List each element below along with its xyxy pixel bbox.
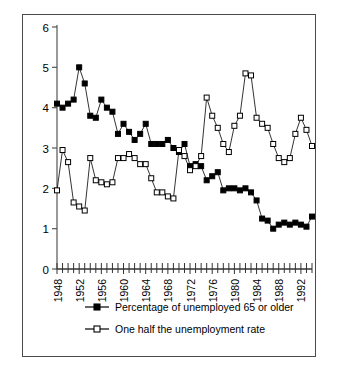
x-tick-label: 1948 bbox=[52, 279, 64, 303]
data-point-filled-square bbox=[104, 105, 109, 110]
x-tick-label: 1964 bbox=[140, 279, 152, 303]
data-point-open-square bbox=[55, 188, 60, 193]
data-point-filled-square bbox=[287, 222, 292, 227]
data-point-filled-square bbox=[77, 65, 82, 70]
y-tick-label: 1 bbox=[43, 223, 49, 235]
data-point-open-square bbox=[221, 141, 226, 146]
data-point-filled-square bbox=[115, 131, 120, 136]
data-point-filled-square bbox=[271, 226, 276, 231]
series-line-0 bbox=[57, 67, 312, 228]
data-point-filled-square bbox=[243, 186, 248, 191]
data-point-open-square bbox=[143, 162, 148, 167]
data-point-filled-square bbox=[55, 101, 60, 106]
line-chart: 0123456194819521956196019641968197219761… bbox=[23, 15, 317, 358]
data-point-filled-square bbox=[298, 222, 303, 227]
data-point-filled-square bbox=[304, 224, 309, 229]
data-point-open-square bbox=[71, 200, 76, 205]
y-tick-label: 0 bbox=[43, 264, 49, 276]
data-point-open-square bbox=[160, 190, 165, 195]
data-point-filled-square bbox=[82, 81, 87, 86]
data-point-filled-square bbox=[149, 141, 154, 146]
figure-caption bbox=[10, 366, 330, 378]
data-point-open-square bbox=[282, 160, 287, 165]
data-point-open-square bbox=[77, 204, 82, 209]
data-point-open-square bbox=[88, 156, 93, 161]
data-point-open-square bbox=[276, 156, 281, 161]
data-point-open-square bbox=[260, 121, 265, 126]
data-point-open-square bbox=[82, 208, 87, 213]
data-point-open-square bbox=[204, 95, 209, 100]
x-tick-label: 1992 bbox=[295, 279, 307, 303]
y-tick-label: 5 bbox=[43, 62, 49, 74]
data-point-open-square bbox=[293, 131, 298, 136]
data-point-open-square bbox=[188, 168, 193, 173]
data-point-open-square bbox=[199, 154, 204, 159]
data-point-filled-square bbox=[110, 109, 115, 114]
x-tick-label: 1972 bbox=[185, 279, 197, 303]
x-tick-label: 1988 bbox=[273, 279, 285, 303]
y-tick-label: 3 bbox=[43, 143, 49, 155]
data-point-filled-square bbox=[237, 188, 242, 193]
data-point-filled-square bbox=[226, 186, 231, 191]
data-point-open-square bbox=[154, 190, 159, 195]
data-point-filled-square bbox=[215, 170, 220, 175]
plot-area: 0123456194819521956196019641968197219761… bbox=[23, 15, 317, 358]
data-point-open-square bbox=[215, 125, 220, 130]
y-tick-label: 2 bbox=[43, 183, 49, 195]
data-point-open-square bbox=[66, 160, 71, 165]
data-point-open-square bbox=[232, 123, 237, 128]
data-point-filled-square bbox=[165, 137, 170, 142]
data-point-open-square bbox=[171, 196, 176, 201]
x-tick-label: 1980 bbox=[229, 279, 241, 303]
data-point-filled-square bbox=[282, 220, 287, 225]
data-point-open-square bbox=[298, 115, 303, 120]
x-tick-label: 1952 bbox=[74, 279, 86, 303]
data-point-open-square bbox=[265, 125, 270, 130]
data-point-open-square bbox=[110, 180, 115, 185]
legend-label: One half the unemployment rate bbox=[115, 323, 265, 335]
data-point-open-square bbox=[121, 156, 126, 161]
data-point-filled-square bbox=[132, 137, 137, 142]
legend-marker-filled-square bbox=[94, 304, 100, 310]
chart-frame: 0123456194819521956196019641968197219761… bbox=[22, 14, 316, 357]
data-point-filled-square bbox=[121, 121, 126, 126]
data-point-filled-square bbox=[199, 164, 204, 169]
data-point-open-square bbox=[304, 127, 309, 132]
x-tick-label: 1960 bbox=[118, 279, 130, 303]
data-point-open-square bbox=[287, 156, 292, 161]
x-tick-label: 1968 bbox=[162, 279, 174, 303]
data-point-filled-square bbox=[60, 105, 65, 110]
data-point-open-square bbox=[182, 154, 187, 159]
data-point-filled-square bbox=[260, 216, 265, 221]
data-point-open-square bbox=[127, 152, 132, 157]
data-point-open-square bbox=[271, 141, 276, 146]
data-point-open-square bbox=[176, 148, 181, 153]
data-point-filled-square bbox=[232, 186, 237, 191]
data-point-filled-square bbox=[293, 220, 298, 225]
data-point-open-square bbox=[138, 162, 143, 167]
data-point-filled-square bbox=[210, 174, 215, 179]
data-point-filled-square bbox=[171, 146, 176, 151]
data-point-open-square bbox=[254, 115, 259, 120]
data-point-filled-square bbox=[66, 101, 71, 106]
data-point-open-square bbox=[249, 73, 254, 78]
data-point-filled-square bbox=[276, 222, 281, 227]
data-point-filled-square bbox=[154, 141, 159, 146]
data-point-filled-square bbox=[71, 97, 76, 102]
x-tick-label: 1956 bbox=[96, 279, 108, 303]
data-point-open-square bbox=[115, 156, 120, 161]
x-tick-label: 1984 bbox=[251, 279, 263, 303]
legend-label: Percentage of unemployed 65 or older bbox=[115, 301, 294, 313]
legend-marker-open-square bbox=[94, 326, 100, 332]
data-point-open-square bbox=[310, 143, 315, 148]
data-point-filled-square bbox=[99, 97, 104, 102]
y-tick-label: 4 bbox=[43, 102, 50, 114]
y-tick-label: 6 bbox=[43, 22, 49, 34]
data-point-open-square bbox=[132, 156, 137, 161]
figure-root: 0123456194819521956196019641968197219761… bbox=[0, 0, 339, 380]
data-point-filled-square bbox=[182, 141, 187, 146]
data-point-filled-square bbox=[249, 190, 254, 195]
data-point-open-square bbox=[60, 148, 65, 153]
data-point-filled-square bbox=[310, 214, 315, 219]
data-point-filled-square bbox=[221, 188, 226, 193]
